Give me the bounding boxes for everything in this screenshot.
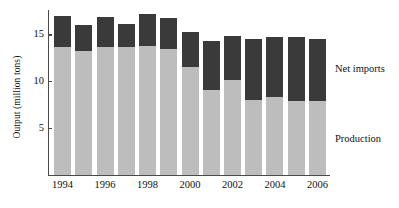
bar-2005 <box>288 37 305 174</box>
x-tick-label-2004: 2004 <box>264 180 285 191</box>
y-tick-label: 15 <box>34 29 45 40</box>
bar-segment-net-imports <box>288 37 305 101</box>
bar-segment-production <box>224 80 241 174</box>
bar-segment-net-imports <box>75 25 92 51</box>
bar-segment-net-imports <box>97 17 114 48</box>
x-tick-label-1994: 1994 <box>52 180 73 191</box>
plot-area: 51015 1994199619982000200220042006 <box>48 10 330 176</box>
bar-segment-production <box>309 101 326 175</box>
x-tick-label-2002: 2002 <box>222 180 243 191</box>
bar-segment-net-imports <box>203 41 220 90</box>
bar-segment-production <box>182 67 199 175</box>
bar-segment-production <box>245 100 262 175</box>
x-tick-label-2000: 2000 <box>180 180 201 191</box>
bar-2001 <box>203 41 220 175</box>
bar-segment-production <box>75 51 92 174</box>
bar-1995 <box>75 25 92 175</box>
bar-segment-production <box>160 49 177 174</box>
bar-segment-production <box>288 101 305 175</box>
legend-label-net-imports: Net imports <box>335 64 385 75</box>
bar-segment-production <box>266 97 283 175</box>
x-tick-label-1996: 1996 <box>95 180 116 191</box>
bar-segment-production <box>203 90 220 175</box>
y-axis-title: Output (million tons) <box>12 22 22 172</box>
x-axis-line <box>48 175 330 176</box>
bar-2000 <box>182 32 199 174</box>
bar-segment-net-imports <box>139 14 156 46</box>
y-tick-label: 5 <box>39 122 44 132</box>
bar-segment-net-imports <box>245 39 262 100</box>
y-tick-mark <box>48 128 52 129</box>
bar-1998 <box>139 14 156 175</box>
bar-segment-net-imports <box>224 36 241 80</box>
bar-2002 <box>224 36 241 174</box>
bar-segment-production <box>97 47 114 174</box>
bar-2004 <box>266 37 283 174</box>
bar-1996 <box>97 17 114 175</box>
legend-label-production: Production <box>335 134 381 145</box>
chart-figure: Output (million tons) 51015 199419961998… <box>0 0 399 208</box>
bar-segment-net-imports <box>160 18 177 50</box>
x-tick-label-2006: 2006 <box>307 180 328 191</box>
bar-1994 <box>54 16 71 175</box>
bar-segment-net-imports <box>266 37 283 97</box>
y-tick-label: 10 <box>34 76 45 87</box>
bar-segment-production <box>118 47 135 174</box>
bar-segment-production <box>139 46 156 175</box>
bar-segment-net-imports <box>118 24 135 47</box>
bar-2003 <box>245 39 262 175</box>
bar-segment-net-imports <box>182 32 199 67</box>
bar-2006 <box>309 39 326 175</box>
bar-segment-net-imports <box>54 16 71 48</box>
bar-segment-production <box>54 47 71 174</box>
x-tick-label-1998: 1998 <box>137 180 158 191</box>
bar-segment-net-imports <box>309 39 326 101</box>
bar-1999 <box>160 18 177 175</box>
y-tick-mark <box>48 81 52 82</box>
bar-1997 <box>118 24 135 175</box>
y-tick-mark <box>48 34 52 35</box>
